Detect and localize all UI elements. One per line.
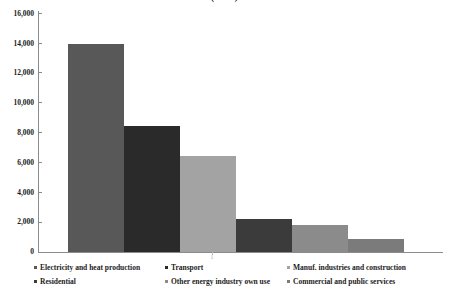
legend-label: Electricity and heat production [40, 264, 140, 272]
bar-5[interactable] [348, 239, 404, 252]
legend-swatch-icon [287, 266, 290, 269]
y-axis-label: 10,000 [2, 99, 34, 107]
legend-label: Manuf. industries and construction [293, 264, 406, 272]
bar-4[interactable] [292, 225, 348, 252]
y-axis-label: 2,000 [2, 218, 34, 226]
y-axis-label: 0 [2, 248, 34, 256]
legend-item-residential[interactable]: Residential [34, 278, 76, 286]
legend-label: Commercial and public services [293, 278, 395, 286]
bar-3[interactable] [236, 219, 292, 252]
legend-swatch-icon [165, 280, 168, 283]
bar-2[interactable] [180, 156, 236, 252]
y-axis-label: 12,000 [2, 69, 34, 77]
bar-1[interactable] [124, 126, 180, 252]
legend-label: Residential [40, 278, 76, 286]
bar-chart: (2011) 16,000 14,000 12,000 10,000 8,000… [0, 0, 449, 295]
plot-area [38, 13, 443, 252]
y-axis-label: 8,000 [2, 129, 34, 137]
legend-swatch-icon [165, 266, 168, 269]
y-axis-labels: 16,000 14,000 12,000 10,000 8,000 6,000 … [0, 0, 34, 295]
legend-item-manuf-industries-and-construction[interactable]: Manuf. industries and construction [287, 264, 406, 272]
y-axis-label: 16,000 [2, 10, 34, 18]
legend-item-other-energy-industry-own-use[interactable]: Other energy industry own use [165, 278, 270, 286]
y-axis-label: 14,000 [2, 40, 34, 48]
legend-label: Transport [171, 264, 203, 272]
x-axis-line [38, 252, 443, 253]
chart-legend: Electricity and heat production Resident… [34, 264, 449, 292]
legend-swatch-icon [34, 266, 37, 269]
y-axis-label: 6,000 [2, 159, 34, 167]
y-axis-label: 4,000 [2, 189, 34, 197]
bar-0[interactable] [68, 44, 124, 252]
legend-label: Other energy industry own use [171, 278, 270, 286]
legend-item-commercial-and-public-services[interactable]: Commercial and public services [287, 278, 395, 286]
legend-item-electricity-and-heat-production[interactable]: Electricity and heat production [34, 264, 140, 272]
chart-title: (2011) [0, 0, 449, 2]
legend-swatch-icon [34, 280, 37, 283]
x-axis-tick-label: 1 [204, 254, 220, 260]
legend-item-transport[interactable]: Transport [165, 264, 203, 272]
legend-swatch-icon [287, 280, 290, 283]
